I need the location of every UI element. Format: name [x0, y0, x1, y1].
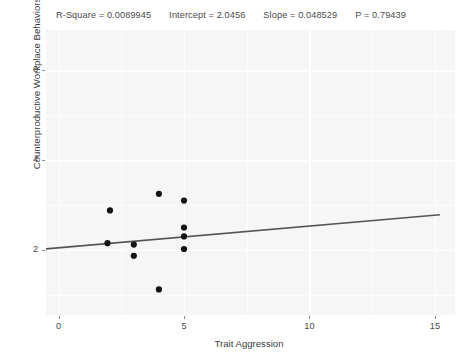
data-point — [104, 240, 110, 246]
stat-p-value: P = 0.79439 — [355, 10, 406, 20]
y-tick-mark-6 — [42, 70, 45, 71]
x-tick-label-10: 10 — [296, 321, 322, 331]
x-axis-title: Trait Aggression — [63, 338, 435, 349]
x-tick-label-15: 15 — [422, 321, 448, 331]
y-tick-mark-2 — [42, 250, 45, 251]
x-tick-mark-0 — [59, 316, 60, 319]
data-point — [181, 197, 187, 203]
y-tick-mark-4 — [42, 160, 45, 161]
stat-slope: Slope = 0.048529 — [263, 10, 337, 20]
plot-area — [46, 30, 455, 315]
x-tick-mark-15 — [435, 316, 436, 319]
stat-intercept: Intercept = 2.0456 — [169, 10, 245, 20]
x-tick-label-5: 5 — [171, 321, 197, 331]
y-tick-label-6: 6 — [10, 64, 38, 74]
scatter-plot-figure: R-Square = 0.0089945 Intercept = 2.0456 … — [0, 0, 462, 360]
x-tick-mark-10 — [309, 316, 310, 319]
data-point — [181, 246, 187, 252]
data-point — [107, 207, 113, 213]
y-axis-title: Counterproductive Workplace Behaviors — [31, 0, 42, 204]
plot-panel — [46, 30, 455, 315]
x-tick-mark-5 — [184, 316, 185, 319]
data-point — [156, 191, 162, 197]
y-tick-label-2: 2 — [10, 244, 38, 254]
data-points — [104, 191, 187, 293]
y-tick-label-4: 4 — [10, 154, 38, 164]
data-point — [181, 233, 187, 239]
data-point — [156, 286, 162, 292]
regression-statistics-header: R-Square = 0.0089945 Intercept = 2.0456 … — [0, 10, 462, 20]
data-point — [131, 253, 137, 259]
data-point — [131, 241, 137, 247]
x-tick-label-0: 0 — [46, 321, 72, 331]
data-point — [181, 224, 187, 230]
stat-r-square: R-Square = 0.0089945 — [56, 10, 151, 20]
